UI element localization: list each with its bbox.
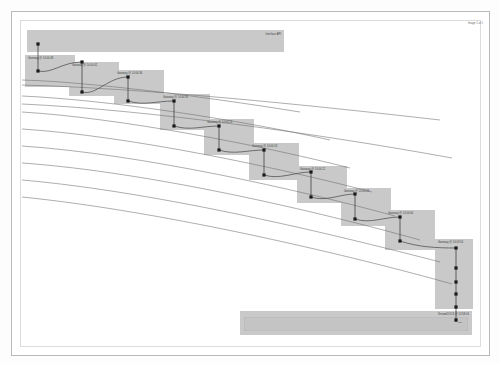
event-marker[interactable] [454, 280, 457, 283]
event-marker[interactable] [172, 99, 175, 102]
through-curve [22, 104, 452, 158]
event-marker[interactable] [353, 192, 356, 195]
step-connector [38, 62, 82, 71]
event-marker[interactable] [217, 148, 220, 151]
sweep-curve [22, 197, 452, 284]
event-marker[interactable] [262, 148, 265, 151]
event-marker[interactable] [36, 42, 39, 45]
event-marker[interactable] [36, 69, 39, 72]
event-marker[interactable] [80, 90, 83, 93]
step-connector [219, 150, 264, 152]
event-marker[interactable] [309, 195, 312, 198]
event-marker[interactable] [80, 60, 83, 63]
sweep-curve [22, 146, 395, 216]
event-marker[interactable] [454, 318, 457, 321]
event-marker[interactable] [454, 305, 457, 308]
through-curve [22, 85, 440, 120]
event-marker[interactable] [172, 124, 175, 127]
event-marker[interactable] [126, 75, 129, 78]
sweep-curve [22, 180, 440, 262]
diagram-canvas: Image 1 of 1 Interface API StreamDOCS @ … [0, 0, 499, 365]
step-connector [355, 217, 400, 221]
connector-layer [0, 0, 499, 365]
event-marker[interactable] [309, 170, 312, 173]
event-marker[interactable] [398, 239, 401, 242]
event-marker[interactable] [262, 173, 265, 176]
sweep-curve [22, 112, 350, 168]
step-connector [264, 172, 311, 177]
event-marker[interactable] [398, 215, 401, 218]
event-marker[interactable] [454, 246, 457, 249]
step-connector [400, 241, 456, 248]
event-marker[interactable] [454, 292, 457, 295]
event-marker[interactable] [217, 124, 220, 127]
event-marker[interactable] [126, 99, 129, 102]
step-connector [82, 77, 128, 93]
event-marker[interactable] [353, 217, 356, 220]
step-connector [174, 126, 219, 128]
step-connector [128, 101, 174, 103]
event-marker[interactable] [454, 266, 457, 269]
sweep-curve [22, 80, 300, 112]
